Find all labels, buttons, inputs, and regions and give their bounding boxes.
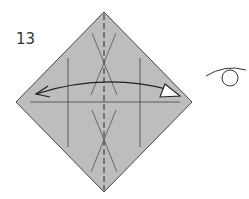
- origami-diagram: [0, 0, 249, 199]
- turn-over-icon: [206, 68, 246, 86]
